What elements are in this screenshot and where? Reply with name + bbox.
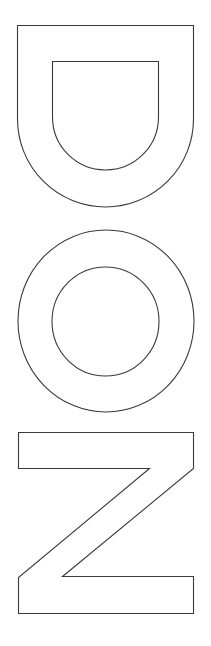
letter-d xyxy=(18,26,194,208)
letter-o xyxy=(18,230,194,412)
letter-n xyxy=(19,433,194,614)
letter-n-outline xyxy=(19,433,194,614)
letter-artwork xyxy=(0,0,211,646)
letter-o-inner xyxy=(52,267,159,376)
letter-d-inner xyxy=(53,62,159,171)
